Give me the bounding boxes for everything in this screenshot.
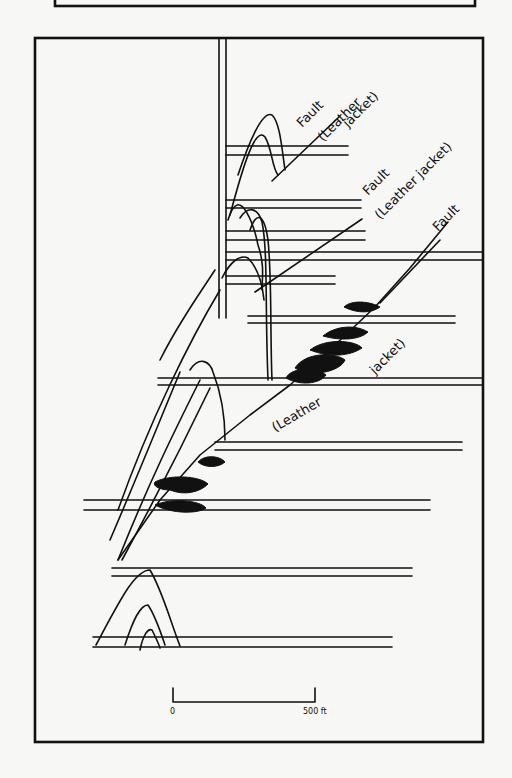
fault-label: jacket)	[366, 335, 408, 377]
scale-bar-line	[173, 688, 315, 702]
ore-body	[310, 342, 362, 356]
fault-label: Fault	[430, 201, 463, 234]
scale-bar: 0 500 ft	[170, 688, 327, 716]
vein-trace	[250, 218, 272, 380]
vein-trace	[96, 570, 180, 646]
vein-trace	[190, 361, 225, 440]
vein-trace	[222, 257, 264, 300]
geologic-cross-section: Fault(Leatherjacket)Fault(Leather jacket…	[0, 0, 512, 778]
scale-label-end: 500 ft	[303, 707, 327, 716]
top-strip-border	[55, 0, 475, 6]
fault-label: Fault	[360, 165, 393, 198]
vein-trace	[110, 372, 180, 540]
ore-body	[154, 477, 208, 493]
vein-traces	[96, 115, 285, 650]
fault-line	[380, 240, 440, 303]
ore-body	[323, 327, 368, 339]
scale-label-start: 0	[170, 707, 175, 716]
vein-trace	[125, 605, 165, 645]
ore-body	[286, 369, 326, 383]
fault-label: (Leather	[269, 394, 324, 435]
ore-body	[344, 302, 380, 312]
vein-trace	[160, 270, 215, 360]
fault-label: Fault	[294, 97, 327, 130]
ore-body	[198, 457, 225, 467]
fault-line	[255, 219, 362, 292]
